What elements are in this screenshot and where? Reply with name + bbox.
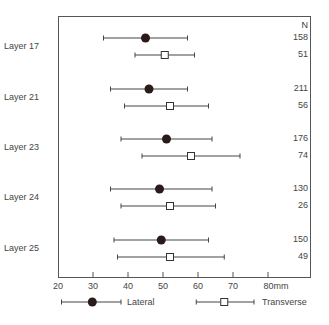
n-value: 158	[278, 32, 308, 42]
n-value: 26	[278, 200, 308, 210]
x-tick-label: 80mm	[263, 281, 288, 291]
category-label: Layer 23	[4, 142, 39, 152]
n-value: 150	[278, 234, 308, 244]
transverse-mean-marker	[167, 103, 174, 110]
lateral-mean-marker	[155, 185, 164, 194]
lateral-mean-marker	[141, 34, 150, 43]
x-tick-label: 60	[193, 281, 203, 291]
lateral-mean-marker	[145, 85, 154, 94]
transverse-mean-marker	[167, 254, 174, 261]
n-value: 56	[278, 100, 308, 110]
transverse-mean-marker	[188, 153, 195, 160]
lateral-mean-marker	[162, 135, 171, 144]
n-value: 130	[278, 183, 308, 193]
n-value: 74	[278, 150, 308, 160]
x-tick-label: 20	[53, 281, 63, 291]
n-value: 211	[278, 83, 308, 93]
category-label: Layer 17	[4, 41, 39, 51]
category-label: Layer 21	[4, 92, 39, 102]
lateral-mean-marker	[157, 236, 166, 245]
x-tick-label: 30	[88, 281, 98, 291]
category-label: Layer 24	[4, 192, 39, 202]
x-tick-label: 70	[228, 281, 238, 291]
n-value: 176	[278, 133, 308, 143]
x-tick-label: 40	[123, 281, 133, 291]
category-label: Layer 25	[4, 243, 39, 253]
legend-transverse-label: Transverse	[262, 297, 307, 307]
legend-transverse-mean-marker	[221, 299, 228, 306]
legend-lateral-mean-marker	[88, 298, 97, 307]
n-value: 51	[278, 49, 308, 59]
n-column-header: N	[288, 20, 308, 30]
transverse-mean-marker	[167, 203, 174, 210]
n-value: 49	[278, 251, 308, 261]
transverse-mean-marker	[161, 52, 168, 59]
legend-lateral-label: Lateral	[127, 297, 155, 307]
x-tick-label: 50	[158, 281, 168, 291]
